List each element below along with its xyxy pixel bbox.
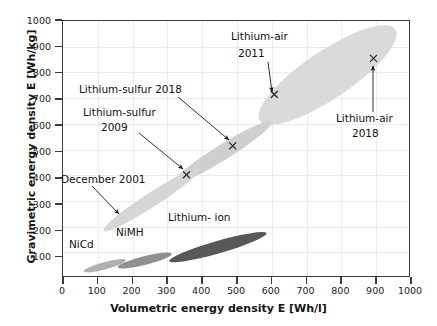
ytick-200 xyxy=(55,230,62,232)
marker-lithium-sulfur-2018 xyxy=(229,142,236,149)
region-lithium-ion xyxy=(168,227,269,267)
ytick-900 xyxy=(55,46,62,48)
ytick-300 xyxy=(55,203,62,205)
xtick-0 xyxy=(62,277,64,284)
xtick-800 xyxy=(340,277,342,284)
energy-density-chart: 1000 900 800 700 600 500 400 300 200 100… xyxy=(0,0,437,326)
xtick-200 xyxy=(132,277,134,284)
y-axis-title: Gravimetric energy density E [Wh/kg] xyxy=(25,12,38,282)
xtick-600 xyxy=(271,277,273,284)
ytick-700 xyxy=(55,98,62,100)
region-lithium-sulfur-2018 xyxy=(170,115,276,189)
region-label-nimh: NiMH xyxy=(116,226,144,239)
annotation-lithium-sulfur-year: 2009 xyxy=(101,121,128,134)
xtick-900 xyxy=(375,277,377,284)
annotation-lithium-air-2018-year: 2018 xyxy=(352,127,379,140)
region-nicd xyxy=(83,257,127,275)
annotation-lithium-sulfur-2018: Lithium-sulfur 2018 xyxy=(79,83,182,96)
ytick-800 xyxy=(55,72,62,74)
xtick-1000 xyxy=(410,277,412,284)
annotation-lithium-air-year: 2011 xyxy=(238,47,265,60)
xtick-700 xyxy=(306,277,308,284)
ytick-500 xyxy=(55,151,62,153)
annotation-lithium-sulfur: Lithium-sulfur xyxy=(83,106,156,119)
ytick-100 xyxy=(55,256,62,258)
xtick-100 xyxy=(97,277,99,284)
ytick-600 xyxy=(55,124,62,126)
annotation-lithium-air-2018-label: Lithium-air xyxy=(336,112,393,125)
annotation-december-2001: December 2001 xyxy=(61,173,146,186)
xtick-400 xyxy=(201,277,203,284)
region-label-nicd: NiCd xyxy=(69,238,94,251)
x-axis-title: Volumetric energy density E [Wh/l] xyxy=(0,302,437,315)
xtick-500 xyxy=(236,277,238,284)
ytick-1000 xyxy=(55,19,62,21)
xtick-label-1000: 1000 xyxy=(390,285,430,296)
region-label-lithium-ion: Lithium- ion xyxy=(168,211,230,224)
plot-area xyxy=(62,20,410,277)
xtick-300 xyxy=(166,277,168,284)
annotation-lithium-air-label: Lithium-air xyxy=(231,30,288,43)
